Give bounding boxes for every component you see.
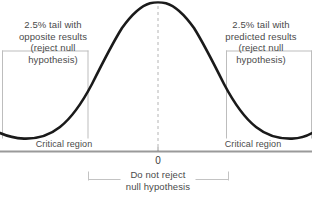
left-tail-line-4: hypothesis) <box>0 54 106 66</box>
critical-region-label-right: Critical region <box>206 139 300 150</box>
do-not-reject-line-2: null hypothesis <box>106 181 210 193</box>
right-tail-line-2: predicted results <box>208 31 312 43</box>
center-tick-label: 0 <box>138 155 178 166</box>
right-tail-annotation: 2.5% tail with predicted results (reject… <box>208 19 312 65</box>
left-tail-line-3: (reject null <box>0 42 106 54</box>
right-tail-line-3: (reject null <box>208 42 312 54</box>
do-not-reject-line-1: Do not reject <box>106 169 210 181</box>
right-tail-line-4: hypothesis) <box>208 54 312 66</box>
left-tail-annotation: 2.5% tail with opposite results (reject … <box>0 19 106 65</box>
left-tail-line-1: 2.5% tail with <box>0 19 106 31</box>
do-not-reject-annotation: Do not reject null hypothesis <box>106 169 210 192</box>
hypothesis-test-figure: 2.5% tail with opposite results (reject … <box>0 0 312 206</box>
left-tail-line-2: opposite results <box>0 31 106 43</box>
right-tail-line-1: 2.5% tail with <box>208 19 312 31</box>
critical-region-label-left: Critical region <box>18 139 110 150</box>
